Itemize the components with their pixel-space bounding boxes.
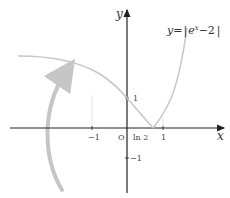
graph-canvas: y x y=|ex−2| O −1 ln 2 1 1 −1 [0, 0, 230, 198]
tick-label-ln2: ln 2 [133, 133, 148, 142]
tick-label-y-1: 1 [133, 94, 138, 103]
curved-arrow [48, 72, 67, 190]
origin-label: O [118, 133, 125, 142]
y-axis-label: y [115, 7, 123, 21]
tick-label-y-minus-1: −1 [130, 154, 142, 163]
equation-label: y=|ex−2| [166, 24, 221, 38]
curve-right-branch [153, 28, 187, 128]
x-axis-label: x [217, 129, 224, 143]
tick-label-x-minus-1: −1 [88, 133, 100, 142]
tick-label-x-1: 1 [161, 133, 166, 142]
curve-left-branch [18, 56, 153, 128]
